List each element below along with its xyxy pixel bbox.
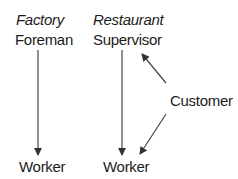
customer-to-supervisor-arrow — [142, 54, 166, 83]
arrows-layer — [0, 0, 238, 179]
customer-to-worker-arrow — [140, 114, 166, 154]
